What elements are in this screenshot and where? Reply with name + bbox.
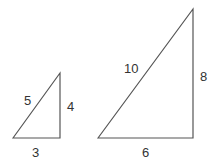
small-triangle — [13, 73, 60, 138]
small-hypotenuse-label: 5 — [24, 94, 31, 107]
large-triangle — [98, 9, 193, 138]
triangles-canvas — [0, 0, 217, 167]
large-hypotenuse-label: 10 — [124, 62, 138, 75]
large-base-label: 6 — [142, 146, 149, 159]
small-vertical-label: 4 — [67, 100, 74, 113]
small-base-label: 3 — [32, 146, 39, 159]
large-vertical-label: 8 — [200, 70, 207, 83]
